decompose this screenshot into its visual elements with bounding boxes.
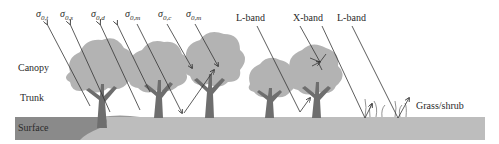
sigma-d-label: σ0,d (91, 8, 105, 22)
sigma-c-label: σ0,c (158, 8, 171, 22)
sigma-t-label: σ0,t (36, 8, 48, 22)
tree-2 (129, 41, 188, 118)
scattering-diagram: σ0,t σ0,s σ0,d σ0,m σ0,c σ0,m L-band X-b… (0, 0, 499, 144)
sigma-m2-label: σ0,m (186, 8, 201, 22)
surface-layer (15, 116, 485, 141)
l-band-label-2: L-band (337, 12, 366, 23)
tree-4 (249, 58, 296, 118)
tree-5 (289, 44, 343, 118)
l-band-label-1: L-band (236, 12, 265, 23)
x-band-label: X-band (293, 12, 323, 23)
tree-1 (66, 38, 134, 128)
trunk-label: Trunk (20, 92, 44, 103)
sigma-m-label: σ0,m (125, 8, 140, 22)
tree-3 (184, 32, 245, 118)
canopy-label: Canopy (18, 62, 49, 73)
grass-shrub-label: Grass/shrub (416, 100, 464, 111)
surface-label: Surface (18, 122, 49, 133)
sigma-s-label: σ0,s (60, 8, 73, 22)
